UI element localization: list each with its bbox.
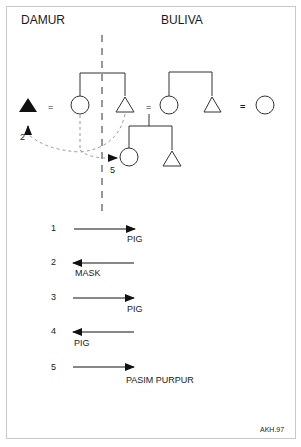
path-label-5: 5 <box>110 165 115 175</box>
sibling-line-2 <box>169 72 212 96</box>
legend: 1 PIG 2 MASK 3 PIG 4 PIG 5 PASIM PURPUR <box>51 223 194 385</box>
exchange-path-2 <box>28 114 125 152</box>
legend-number-3: 3 <box>51 292 56 302</box>
man-triangle-1 <box>116 97 134 112</box>
legend-item-1: PIG <box>127 234 143 244</box>
damur-male-triangle <box>19 98 37 112</box>
woman-circle-1 <box>71 96 89 114</box>
path-label-2: 2 <box>20 132 25 142</box>
group-label-buliva: BULIVA <box>161 13 203 27</box>
group-label-damur: DAMUR <box>21 13 65 27</box>
child-woman-circle <box>120 148 138 166</box>
man-triangle-2 <box>204 97 221 112</box>
marriage-sign-3: = <box>240 102 245 112</box>
legend-number-5: 5 <box>51 362 56 372</box>
legend-number-4: 4 <box>51 326 56 336</box>
marriage-sign-2: = <box>146 102 151 112</box>
woman-circle-3 <box>256 96 274 114</box>
kinship-exchange-diagram: DAMUR BULIVA = = = 2 5 1 PIG 2 MASK 3 PI… <box>0 0 301 447</box>
child-man-triangle <box>163 151 181 166</box>
marriage-sign-1: = <box>48 102 53 112</box>
legend-item-4: PIG <box>74 338 90 348</box>
legend-number-2: 2 <box>51 257 56 267</box>
legend-item-3: PIG <box>127 304 143 314</box>
exchange-path-5 <box>80 150 108 158</box>
legend-item-2: MASK <box>75 268 101 278</box>
legend-item-5: PASIM PURPUR <box>126 375 194 385</box>
woman-circle-2 <box>160 96 178 114</box>
legend-number-1: 1 <box>51 223 56 233</box>
credit-text: AKH.97 <box>260 426 284 433</box>
descent-line <box>129 114 172 150</box>
